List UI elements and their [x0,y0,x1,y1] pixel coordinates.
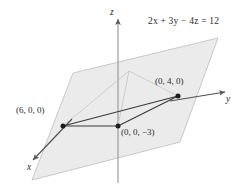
x-axis-label: x [27,163,31,173]
y-axis-label: y [226,95,230,105]
z-intercept-label: (0, 0, −3) [121,128,155,137]
figure-canvas [0,0,243,188]
y-intercept-label: (0, 4, 0) [155,77,184,86]
x-intercept-label: (6, 0, 0) [16,106,45,115]
y-intercept-dot [176,94,181,99]
z-intercept-dot [116,124,121,129]
plane-equation-label: 2x + 3y − 4z = 12 [148,17,219,27]
z-axis-label: z [110,8,114,18]
plane-equation-figure: 2x + 3y − 4z = 12 (0, 4, 0) (6, 0, 0) (0… [0,0,243,188]
plane-surface [32,38,218,180]
x-intercept-dot [61,124,66,129]
